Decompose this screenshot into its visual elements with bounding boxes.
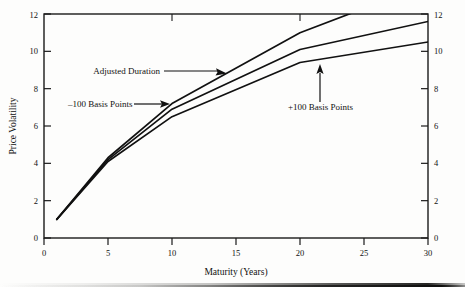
x-tick-label-3: 15 [232,248,241,258]
annotation-plus-100-basis-points: +100 Basis Points [288,64,354,112]
y-tick-label-right-0: 0 [434,233,438,243]
x-tick-label-1: 5 [106,248,110,258]
price-volatility-chart: 0 2 4 6 8 10 12 0 2 4 6 8 10 12 [0,0,465,287]
x-axis-labels: 0 5 10 15 20 25 30 [42,248,432,258]
annotation-plus-100-label: +100 Basis Points [288,102,354,112]
x-axis-ticks [44,238,428,245]
y-tick-label-left-6: 12 [30,10,39,20]
y-tick-label-right-5: 10 [434,46,443,56]
x-axis-top-ticks [172,14,300,21]
x-tick-label-5: 25 [360,248,369,258]
x-tick-label-2: 10 [168,248,177,258]
x-tick-label-0: 0 [42,248,46,258]
annotation-minus-100-label: –100 Basis Points [67,99,133,109]
plot-frame [44,14,428,238]
y-axis-title: Price Volatility [8,97,18,154]
annotation-adjusted-duration: Adjusted Duration [93,66,227,76]
x-axis-title: Maturity (Years) [204,267,267,278]
y-tick-label-right-4: 8 [434,84,438,94]
y-tick-label-left-4: 8 [34,84,38,94]
y-axis-left-ticks [44,14,51,238]
curves-group [57,0,428,219]
y-tick-label-left-5: 10 [30,46,39,56]
y-axis-right-ticks [421,14,428,238]
y-tick-label-right-3: 6 [434,121,438,131]
y-tick-label-right-6: 12 [434,10,443,20]
y-tick-label-left-3: 6 [34,121,38,131]
annotation-adjusted-duration-label: Adjusted Duration [93,66,160,76]
x-tick-label-6: 30 [424,248,433,258]
y-tick-label-left-0: 0 [34,233,38,243]
y-axis-right-labels: 0 2 4 6 8 10 12 [434,10,443,244]
y-tick-label-left-2: 4 [34,158,39,168]
y-tick-label-left-1: 2 [34,196,38,206]
arrow-up-icon [316,64,323,74]
y-tick-label-right-1: 2 [434,196,438,206]
y-tick-label-right-2: 4 [434,158,439,168]
annotation-minus-100-basis-points: –100 Basis Points [67,99,170,109]
x-tick-label-4: 20 [296,248,305,258]
y-axis-left-labels: 0 2 4 6 8 10 12 [30,10,39,244]
chart-figure: 0 2 4 6 8 10 12 0 2 4 6 8 10 12 [0,0,465,287]
